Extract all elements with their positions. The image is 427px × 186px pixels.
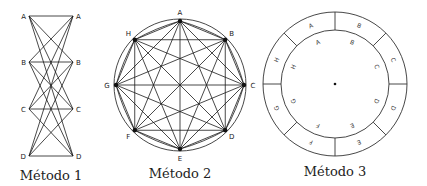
node-label-left: B	[21, 59, 26, 67]
node-label-right: A	[76, 13, 81, 21]
node-label: E	[178, 155, 182, 163]
segment-divider	[373, 33, 386, 46]
inner-label: E	[349, 122, 355, 130]
inner-label: D	[373, 98, 381, 105]
inner-label: C	[373, 63, 381, 70]
outer-segment-label: H	[272, 56, 280, 63]
outer-segment-label: E	[356, 139, 362, 147]
outer-segment-label: B	[356, 21, 362, 29]
outer-segment-label: G	[272, 104, 280, 111]
edge	[135, 40, 244, 85]
outer-segment-label: F	[307, 139, 313, 147]
outer-segment-label: A	[307, 21, 314, 29]
method-3-diagram: ABCDEFGHABCDEFGH	[263, 12, 407, 156]
edge	[135, 85, 244, 130]
inner-label: A	[314, 38, 321, 46]
node-label: C	[251, 82, 256, 90]
outer-segment-label: C	[390, 56, 398, 63]
node-label-left: A	[21, 13, 26, 21]
node-dot	[133, 128, 137, 132]
inner-label: G	[289, 98, 297, 105]
edge	[116, 40, 225, 85]
method-3-caption: Método 3	[304, 164, 367, 179]
node-label-right: C	[76, 106, 81, 114]
inner-label: F	[314, 122, 320, 130]
segment-divider	[284, 33, 297, 46]
node-label-left: D	[21, 153, 26, 161]
method-1-diagram: ABCDABCD	[21, 13, 82, 161]
node-label-left: C	[21, 106, 26, 114]
node-label-right: D	[76, 153, 81, 161]
node-dot	[114, 83, 118, 87]
diagram-canvas: ABCDABCD Método 1 ABCDEFGH Método 2 ABCD…	[0, 0, 427, 186]
method-2-caption: Método 2	[149, 166, 212, 181]
edge	[116, 85, 225, 130]
segment-divider	[373, 122, 386, 135]
edge	[135, 40, 180, 149]
node-label: G	[104, 82, 109, 90]
edge	[180, 40, 225, 149]
node-dot	[242, 83, 246, 87]
node-label: D	[229, 133, 234, 141]
method-2-diagram: ABCDEFGH	[104, 9, 255, 163]
method-1-caption: Método 1	[20, 168, 83, 183]
node-dot	[178, 147, 182, 151]
inner-label: H	[289, 63, 297, 70]
node-dot	[223, 38, 227, 42]
center-dot	[334, 83, 337, 86]
node-label: A	[178, 9, 183, 17]
node-dot	[223, 128, 227, 132]
edge	[135, 21, 180, 130]
segment-divider	[284, 122, 297, 135]
node-dot	[178, 19, 182, 23]
node-label: H	[126, 30, 131, 38]
edge	[180, 21, 225, 130]
node-label: B	[229, 30, 234, 38]
node-label-right: B	[76, 59, 81, 67]
node-dot	[133, 38, 137, 42]
outer-segment-label: D	[389, 105, 397, 112]
inner-label: B	[349, 38, 355, 46]
node-label: F	[126, 133, 130, 141]
